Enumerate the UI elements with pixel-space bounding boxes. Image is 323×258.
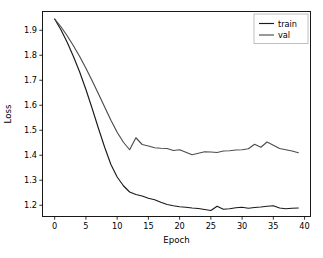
y-axis-title: Loss [3, 104, 13, 123]
xtick-label: 35 [268, 221, 278, 231]
xtick-label: 10 [112, 221, 122, 231]
xtick-label: 25 [206, 221, 216, 231]
ytick-label: 1.4 [24, 150, 37, 160]
ytick-label: 1.5 [24, 125, 37, 135]
xtick-label: 0 [52, 221, 57, 231]
xtick-label: 40 [299, 221, 309, 231]
xtick-label: 5 [83, 221, 88, 231]
ytick-label: 1.9 [24, 25, 37, 35]
xtick-label: 20 [174, 221, 184, 231]
ytick-label: 1.7 [24, 75, 37, 85]
ytick-label: 1.2 [24, 200, 37, 210]
ytick-label: 1.8 [24, 50, 37, 60]
legend-label-train: train [278, 19, 297, 29]
ytick-label: 1.6 [24, 100, 37, 110]
figure-canvas: 05101520253035401.21.31.41.51.61.71.81.9… [0, 0, 323, 258]
x-axis-title: Epoch [163, 235, 189, 245]
xtick-label: 30 [237, 221, 247, 231]
loss-curve-chart: 05101520253035401.21.31.41.51.61.71.81.9… [0, 0, 323, 258]
chart-legend[interactable]: trainval [254, 14, 308, 44]
ytick-label: 1.3 [24, 175, 37, 185]
xtick-label: 15 [143, 221, 153, 231]
legend-label-val: val [278, 30, 290, 40]
